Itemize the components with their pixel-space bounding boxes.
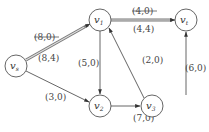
edge-vs-v1-label: (8,4) (38, 53, 59, 63)
edge-v1-v2: (5,0) (78, 31, 100, 94)
node-v3: v3 (141, 95, 163, 117)
node-vs: vs (5, 55, 27, 77)
node-vt: vt (175, 9, 197, 31)
edge-v1-vt: (4,0) (4,4) (111, 6, 175, 34)
edge-vs-v2-label: (3,0) (45, 92, 66, 102)
edge-v3-v1: (2,0) (109, 28, 163, 98)
edge-v3-vt-label: (6,0) (185, 63, 206, 73)
edge-v1-v2-label: (5,0) (78, 58, 99, 68)
node-v2: v2 (89, 95, 111, 117)
edge-v3-vt: (6,0) (185, 32, 206, 95)
edge-vs-v2: (3,0) (26, 71, 89, 102)
flow-network-diagram: (8,0) (8,4) (4,0) (4,4) (5,0) (2,0) (3,0… (0, 0, 209, 132)
edge-v3-v1-label: (2,0) (142, 55, 163, 65)
edge-v1-vt-label: (4,4) (133, 24, 154, 34)
node-v1: v1 (89, 9, 111, 31)
